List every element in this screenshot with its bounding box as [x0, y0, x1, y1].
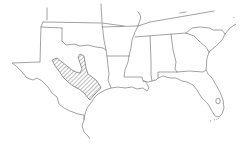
lake-okeechobee [216, 98, 220, 104]
border-nc-sc [186, 27, 225, 34]
border-tn-south [135, 33, 186, 37]
border-ga-fl [177, 70, 206, 72]
border-ks-mo [101, 4, 102, 22]
range-map: South-central and southeastern United St… [0, 0, 248, 164]
border-ga-sc [186, 33, 209, 52]
border-ok-tx-west [40, 22, 43, 62]
coast-nc [225, 24, 236, 34]
map-canvas [0, 0, 248, 164]
border-ok-panhandle-south [41, 27, 62, 28]
border-red-river [62, 41, 106, 50]
hatched-range-region [52, 54, 101, 100]
border-mo-ar [102, 26, 138, 27]
border-ar-east [129, 26, 138, 56]
border-ms-al [150, 36, 152, 81]
border-tn-north [138, 11, 214, 26]
border-la-ms [124, 56, 143, 81]
border-al-ga [171, 34, 177, 72]
coast-ms-al [143, 78, 158, 82]
border-va-nc-stub [180, 12, 186, 13]
coast-ga-sc [206, 34, 225, 70]
coast-florida-panhandle [158, 70, 224, 117]
border-ok-north [43, 22, 124, 26]
border-ky-curve [138, 12, 141, 26]
florida-keys [210, 118, 220, 121]
florida [158, 70, 224, 121]
coast-louisiana [111, 81, 149, 91]
